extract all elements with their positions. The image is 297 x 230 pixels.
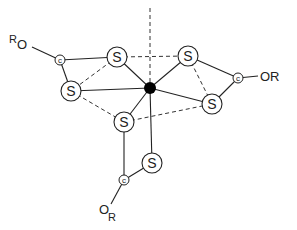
svg-text:c: c [58,56,62,65]
edge-s1-s2 [117,56,188,57]
coordination-diagram: S S S S S S c c c R O OR O R [0,0,297,230]
carbon-atom: c [233,73,243,83]
svg-text:S: S [66,83,75,99]
solid-bonds [32,47,258,204]
bond-m-s3 [71,88,150,91]
carbon-atom: c [55,55,65,65]
group-ro-top-left: R O [9,33,27,52]
svg-text:c: c [122,176,126,185]
svg-text:S: S [147,155,156,171]
svg-text:S: S [207,96,216,112]
sulfur-atom: S [142,153,162,173]
carbon-atom: c [119,175,129,185]
svg-text:OR: OR [260,69,280,84]
group-or-right: OR [260,69,280,84]
svg-text:O: O [17,37,27,52]
svg-text:c: c [236,74,240,83]
sulfur-atom: S [61,81,81,101]
svg-text:R: R [9,33,17,45]
sulfur-atom: S [202,94,222,114]
sulfur-atom: S [178,46,198,66]
sulfur-atom: S [114,112,134,132]
edge-s5-s4 [124,104,212,122]
svg-text:S: S [119,114,128,130]
group-or-bottom: O R [99,202,116,223]
sulfur-atom: S [107,47,127,67]
svg-text:S: S [112,49,121,65]
svg-text:R: R [108,211,116,223]
svg-text:S: S [183,48,192,64]
bond-m-s6 [150,88,152,163]
metal-center [144,82,156,94]
